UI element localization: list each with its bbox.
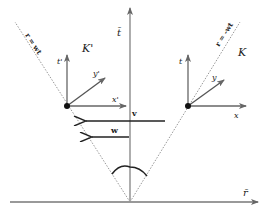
k-t-label: t: [179, 57, 183, 66]
k-prime-x-label: x': [112, 95, 119, 104]
k-x-label: x: [234, 111, 239, 120]
v-label: v: [131, 108, 137, 118]
time-axis-label: t̄: [117, 27, 122, 38]
k-prime-y-label: y': [92, 69, 100, 78]
frame-k-prime-label: K': [81, 42, 93, 55]
spacetime-diagram: r̄ t̄ r = wt r = -wt K' t' x' y' K t x y…: [0, 0, 269, 214]
right-light-line-label: r = -wt: [213, 20, 235, 48]
k-origin-point: [185, 103, 191, 109]
k-y-label: y: [211, 73, 217, 82]
w-label: w: [110, 125, 119, 135]
frame-k-label: K: [237, 46, 247, 59]
k-prime-origin-point: [64, 103, 70, 109]
k-y-axis: [188, 80, 224, 106]
left-light-line-label: r = wt: [23, 31, 44, 56]
k-prime-y-axis: [67, 78, 105, 106]
space-axis-label: r̄: [243, 187, 249, 198]
k-prime-t-label: t': [57, 57, 62, 66]
